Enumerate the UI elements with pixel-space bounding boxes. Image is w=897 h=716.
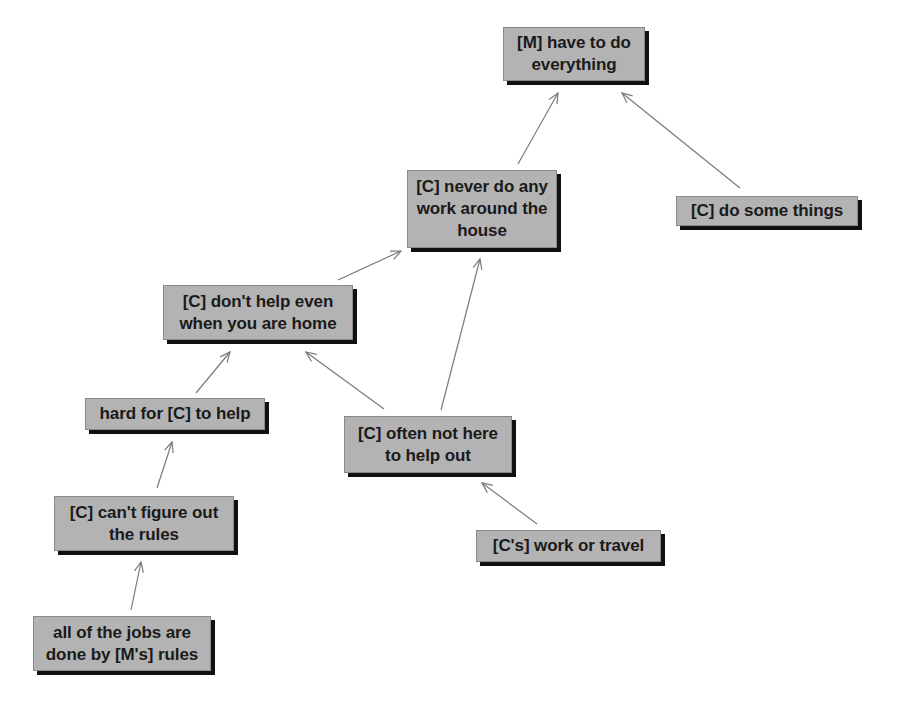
arrowhead-icon [390,251,401,259]
arrowhead-icon [165,442,174,453]
node-label-line: [C] do some things [691,200,843,222]
node-cs-work-or-travel: [C's] work or travel [476,530,661,562]
node-label-line: the rules [70,524,218,546]
node-all-jobs-done-by-ms-rules: all of the jobs are done by [M's] rules [33,616,211,671]
node-label-line: done by [M's] rules [46,644,198,666]
node-label-line: house [416,220,548,242]
node-label-line: [C's] work or travel [493,535,644,557]
node-label-line: everything [517,54,631,76]
node-label-line: [C] never do any [416,176,548,198]
node-label-line: [C] can't figure out [70,502,218,524]
arrowhead-icon [220,352,230,363]
arrowhead-icon [473,259,482,270]
arrow-n6-to-n2 [441,259,482,410]
arrow-n6-to-n4 [306,352,384,409]
arrowhead-icon [482,483,493,493]
node-label-line: all of the jobs are [46,622,198,644]
arrow-n3-to-n1 [622,93,740,188]
arrow-n5-to-n4 [196,352,230,393]
arrowhead-icon [549,93,558,104]
arrow-n2-to-n1 [518,93,558,164]
node-label-line: work around the [416,198,548,220]
arrow-n8-to-n6 [482,483,537,524]
arrowhead-icon [622,93,633,103]
node-c-do-some-things: [C] do some things [676,196,858,226]
node-c-cant-figure-out-rules: [C] can't figure out the rules [54,496,234,551]
node-c-often-not-here: [C] often not here to help out [344,416,512,473]
node-hard-for-c-to-help: hard for [C] to help [85,398,265,430]
node-m-have-to-do-everything: [M] have to do everything [503,27,645,81]
node-label-line: when you are home [179,313,336,335]
arrowhead-icon [306,352,317,362]
node-c-dont-help-even-when-home: [C] don't help even when you are home [163,285,353,340]
concept-map-diagram: [M] have to do everything [C] never do a… [0,0,897,716]
edge-layer [0,0,897,716]
node-label-line: to help out [358,445,498,467]
node-c-never-do-any-work: [C] never do any work around the house [407,170,557,248]
node-label-line: [C] often not here [358,423,498,445]
node-label-line: [M] have to do [517,32,631,54]
node-label-line: [C] don't help even [179,291,336,313]
arrow-n4-to-n2 [338,251,401,280]
node-label-line: hard for [C] to help [100,403,251,425]
arrow-n9-to-n7 [131,562,143,610]
arrow-n7-to-n5 [157,442,173,488]
arrowhead-icon [135,562,144,573]
